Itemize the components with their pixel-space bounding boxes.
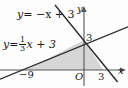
- equation-label-line2: y=13x + 3: [3, 36, 56, 53]
- graph-figure: y= −x + 3 y=13x + 3 O 3 −9 3 y x: [0, 0, 128, 88]
- fraction-denominator: 3: [19, 44, 26, 53]
- x-tick-label-neg-9: −9: [19, 70, 34, 80]
- x-axis-name-label: x: [118, 66, 124, 76]
- equation-label-line2-rest: x + 3: [27, 39, 56, 50]
- origin-label: O: [75, 72, 83, 82]
- y-tick-label-3: 3: [86, 33, 92, 43]
- equation-label-line1: y= −x + 3: [17, 9, 75, 20]
- y-axis-name-label: y: [77, 4, 83, 14]
- fraction-one-third: 13: [19, 36, 26, 53]
- x-tick-label-3: 3: [98, 72, 104, 82]
- equation-label-line2-equals: =: [9, 39, 18, 50]
- fraction-numerator: 1: [19, 36, 26, 44]
- equation-label-line1-rest: = −x + 3: [23, 8, 74, 21]
